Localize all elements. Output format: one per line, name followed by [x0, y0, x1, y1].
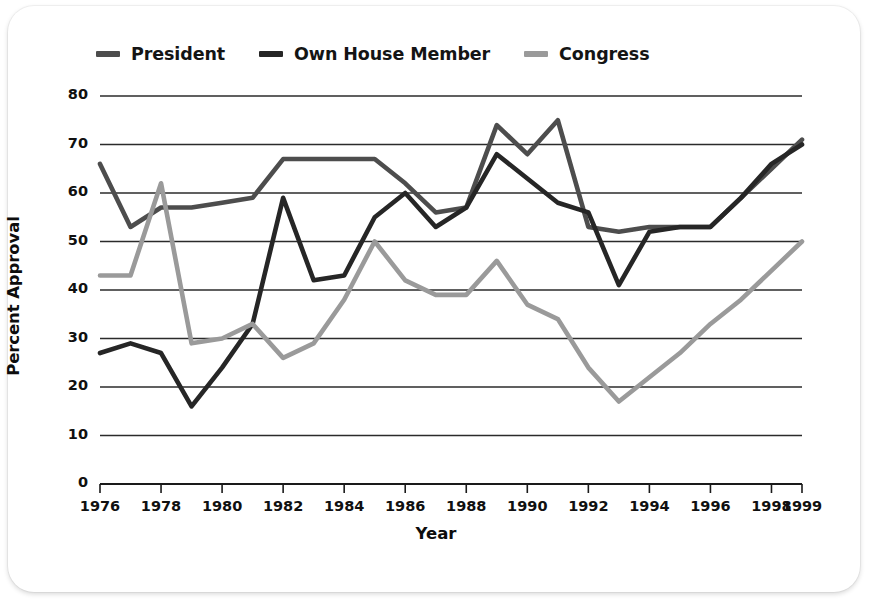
- x-tick-label-1994: 1994: [619, 498, 679, 514]
- y-tick-label-40: 40: [42, 280, 88, 296]
- x-tick-label-1999: 1999: [772, 498, 832, 514]
- data-series-group: [100, 120, 802, 406]
- series-line-own-house-member: [100, 145, 802, 407]
- x-axis-ticks: [100, 484, 802, 493]
- x-tick-label-1978: 1978: [131, 498, 191, 514]
- y-tick-label-60: 60: [42, 183, 88, 199]
- y-tick-label-20: 20: [42, 377, 88, 393]
- x-tick-label-1992: 1992: [558, 498, 618, 514]
- y-tick-label-10: 10: [42, 426, 88, 442]
- y-tick-label-0: 0: [42, 474, 88, 490]
- x-tick-label-1996: 1996: [680, 498, 740, 514]
- x-tick-label-1982: 1982: [253, 498, 313, 514]
- x-tick-label-1980: 1980: [192, 498, 252, 514]
- y-tick-label-70: 70: [42, 135, 88, 151]
- y-tick-label-50: 50: [42, 232, 88, 248]
- y-tick-label-30: 30: [42, 329, 88, 345]
- screenshot-page: President Own House Member Congress Perc…: [0, 0, 872, 605]
- x-tick-label-1986: 1986: [375, 498, 435, 514]
- x-tick-label-1976: 1976: [70, 498, 130, 514]
- y-tick-label-80: 80: [42, 86, 88, 102]
- chart-plot-area: [0, 0, 872, 605]
- x-tick-label-1988: 1988: [436, 498, 496, 514]
- x-tick-label-1990: 1990: [497, 498, 557, 514]
- y-gridlines: [100, 96, 802, 436]
- x-tick-label-1984: 1984: [314, 498, 374, 514]
- chart-figure: President Own House Member Congress Perc…: [0, 0, 872, 605]
